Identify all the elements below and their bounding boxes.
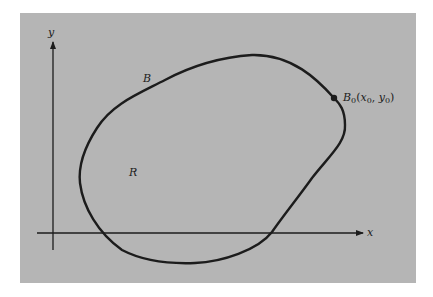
x-axis-label: x <box>367 227 373 238</box>
point-name: B <box>343 91 351 104</box>
comma: , <box>372 91 379 104</box>
y-axis-label: y <box>48 27 54 38</box>
boundary-curve-b <box>80 55 345 263</box>
point-b0-label: B0(x0, y0) <box>343 92 394 105</box>
region-boundary-diagram <box>0 0 433 297</box>
close-paren: ) <box>390 91 394 104</box>
point-b0-marker <box>331 95 337 101</box>
curve-label-b: B <box>143 73 151 84</box>
region-label-r: R <box>129 167 137 178</box>
